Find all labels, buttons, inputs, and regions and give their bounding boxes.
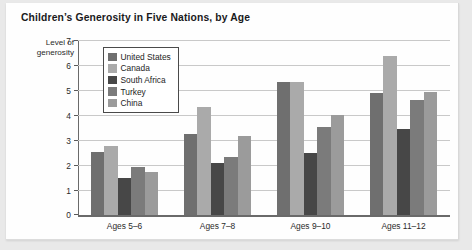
y-axis-tick-label: 0 [66, 210, 71, 220]
y-axis-tick-label: 1 [66, 186, 71, 196]
bar [277, 82, 291, 215]
bar [184, 134, 198, 215]
y-axis-tick-label: 5 [66, 86, 71, 96]
bar [304, 153, 318, 215]
bar [331, 115, 345, 216]
bar [91, 152, 105, 216]
chart-card: Children’s Generosity in Five Nations, b… [6, 3, 459, 240]
y-axis-tick [74, 190, 78, 191]
bar [290, 82, 304, 215]
bar [317, 127, 331, 215]
bar-group: Ages 7–8 [184, 39, 252, 215]
y-axis-tick [74, 165, 78, 166]
x-axis-group-label: Ages 11–12 [381, 221, 425, 231]
y-axis-tick-label: 3 [66, 136, 71, 146]
y-axis-tick-label: 7 [66, 36, 71, 46]
legend-swatch [108, 64, 117, 73]
legend-swatch [108, 76, 117, 85]
chart-title: Children’s Generosity in Five Nations, b… [21, 12, 250, 23]
bar [397, 129, 411, 215]
chart-legend: United StatesCanadaSouth AfricaTurkeyChi… [103, 47, 179, 113]
y-axis-tick [74, 40, 78, 41]
y-axis-tick-label: 4 [66, 111, 71, 121]
legend-label: South Africa [121, 75, 166, 85]
y-axis-tick-label: 6 [66, 61, 71, 71]
bar [238, 136, 252, 216]
legend-swatch [108, 53, 117, 62]
bar [131, 167, 145, 216]
bar [370, 93, 384, 215]
bar-group: Ages 11–12 [370, 39, 438, 215]
bar [224, 157, 238, 216]
legend-item: United States [108, 51, 171, 63]
legend-item: Canada [108, 63, 171, 75]
bar [410, 100, 424, 216]
legend-item: Turkey [108, 86, 171, 98]
bar-group: Ages 9–10 [277, 39, 345, 215]
bar [118, 178, 132, 215]
x-axis-group-label: Ages 5–6 [107, 221, 142, 231]
legend-swatch [108, 87, 117, 96]
y-axis-tick [74, 65, 78, 66]
y-axis-tick [74, 140, 78, 141]
bar [383, 56, 397, 215]
legend-label: Turkey [121, 87, 146, 97]
bar [145, 172, 159, 216]
y-axis-tick [74, 214, 78, 215]
y-axis-tick [74, 90, 78, 91]
x-axis-line [78, 215, 450, 217]
legend-item: South Africa [108, 74, 171, 86]
legend-label: United States [121, 52, 171, 62]
legend-label: Canada [121, 63, 150, 73]
bar [424, 92, 438, 215]
y-axis-tick [74, 115, 78, 116]
y-axis-line [78, 41, 79, 217]
bar [197, 107, 211, 215]
legend-item: China [108, 97, 171, 109]
bar [104, 146, 118, 216]
legend-swatch [108, 99, 117, 108]
legend-label: China [121, 98, 143, 108]
bar [211, 163, 225, 215]
x-axis-group-label: Ages 9–10 [290, 221, 330, 231]
x-axis-group-label: Ages 7–8 [200, 221, 235, 231]
y-axis-tick-label: 2 [66, 161, 71, 171]
y-axis-title-line-2: generosity [22, 48, 74, 58]
